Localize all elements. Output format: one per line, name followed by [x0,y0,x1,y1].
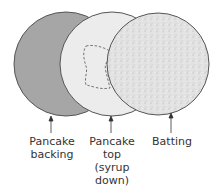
label-text: Batting [146,135,198,148]
label-pancake-top: Pancake top (syrup down) [86,135,138,187]
label-text: Pancake [26,135,78,148]
batting-circle [107,13,209,115]
label-text: top [86,148,138,161]
label-text: (syrup [86,161,138,174]
label-pancake-backing: Pancake backing [26,135,78,161]
label-text: Pancake [86,135,138,148]
label-batting: Batting [146,135,198,148]
label-text: down) [86,174,138,187]
label-text: backing [26,148,78,161]
